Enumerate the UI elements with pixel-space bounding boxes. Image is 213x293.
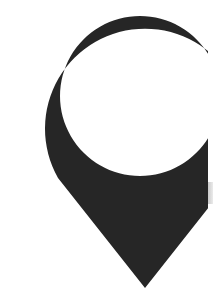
pin-body [45,16,213,288]
map-pin-icon [0,0,213,293]
edge-artifact [208,182,213,204]
